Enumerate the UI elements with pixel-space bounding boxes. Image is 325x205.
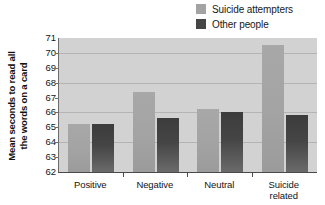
bar-chart-figure: Suicide attempters Other people Mean sec… xyxy=(0,0,325,205)
bar-negative-suicide-attempters xyxy=(133,92,155,172)
x-axis-tick-mark xyxy=(187,172,188,177)
y-axis-tick-label: 71 xyxy=(45,33,56,43)
y-axis-tick-mark xyxy=(55,68,59,69)
legend-item-other-people: Other people xyxy=(196,17,325,31)
bar-neutral-other-people xyxy=(221,112,243,172)
y-axis-tick-mark xyxy=(55,53,59,54)
plot-area xyxy=(58,38,317,172)
x-axis-tick-mark xyxy=(123,172,124,177)
bar-suicide-related-suicide-attempters xyxy=(262,45,284,172)
y-axis-tick-label: 62 xyxy=(45,167,56,177)
y-axis-tick-mark xyxy=(55,98,59,99)
x-axis-label-suicide-related: Suiciderelated xyxy=(252,180,317,201)
y-axis-tick-mark xyxy=(55,112,59,113)
y-axis-title-line-2: the words on a card xyxy=(18,51,30,160)
legend-swatch-icon-suicide-attempters xyxy=(196,4,206,14)
y-axis-tick-labels: 62636465666768697071 xyxy=(36,38,56,172)
y-axis-tick-mark xyxy=(55,142,59,143)
x-axis-tick-mark xyxy=(252,172,253,177)
y-axis-title-line-1: Mean seconds to read all xyxy=(6,51,18,160)
legend-label-suicide-attempters: Suicide attempters xyxy=(212,4,293,15)
y-axis-tick-mark xyxy=(55,127,59,128)
y-axis-title: Mean seconds to read all the words on a … xyxy=(0,36,36,176)
legend-item-suicide-attempters: Suicide attempters xyxy=(196,2,325,16)
x-axis-label-line: related xyxy=(252,191,317,202)
bar-neutral-suicide-attempters xyxy=(197,109,219,172)
bar-suicide-related-other-people xyxy=(286,115,308,172)
x-axis-label-line: Positive xyxy=(58,180,123,191)
y-axis-tick-mark xyxy=(55,157,59,158)
legend-label-other-people: Other people xyxy=(212,19,269,30)
bar-positive-other-people xyxy=(92,124,114,172)
legend-swatch-icon-other-people xyxy=(196,19,206,29)
chart-legend: Suicide attempters Other people xyxy=(196,2,325,32)
x-axis-label-negative: Negative xyxy=(123,180,188,191)
x-axis-label-neutral: Neutral xyxy=(187,180,252,191)
x-axis-label-positive: Positive xyxy=(58,180,123,191)
x-axis-label-line: Neutral xyxy=(187,180,252,191)
x-axis-label-line: Negative xyxy=(123,180,188,191)
bar-negative-other-people xyxy=(157,118,179,172)
y-axis-tick-mark xyxy=(55,83,59,84)
x-axis-label-line: Suicide xyxy=(252,180,317,191)
bar-positive-suicide-attempters xyxy=(68,124,90,172)
